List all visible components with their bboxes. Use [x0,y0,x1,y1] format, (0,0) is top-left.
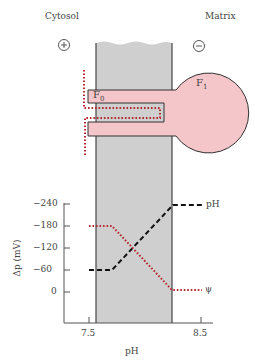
x-tick-8.5: 8.5 [193,328,207,338]
legend-ph: pH [206,199,220,209]
x-axis-label: pH [125,346,139,356]
f1-label: F1 [196,77,207,91]
y-tick-180: −180 [33,220,58,230]
legend-psi: ψ [205,284,212,294]
y-tick-0: 0 [51,286,57,296]
x-tick-7.5: 7.5 [81,328,95,338]
y-tick-60: −60 [33,264,52,274]
y-tick-240: −240 [33,198,58,208]
matrix-label: Matrix [205,11,235,21]
inner-membrane [96,42,172,324]
y-axis-label: Δp (mV) [12,239,22,276]
diagram-canvas [0,0,255,364]
f0-label: F0 [93,89,104,103]
y-tick-120: −120 [33,242,58,252]
cytosol-label: Cytosol [45,11,79,21]
